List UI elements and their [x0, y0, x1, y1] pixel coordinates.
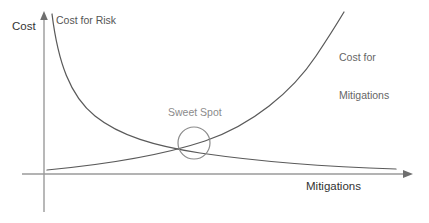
cost-for-mitigations-label-line2: Mitigations [339, 89, 389, 102]
cost-for-risk-label: Cost for Risk [56, 14, 116, 27]
y-axis-label: Cost [12, 19, 36, 33]
cost-vs-mitigations-chart: Cost Mitigations Cost for Risk Cost for … [0, 0, 429, 223]
y-axis-arrow-icon [40, 11, 48, 20]
cost-for-mitigations-label-line1: Cost for [339, 51, 389, 64]
cost-for-mitigations-label: Cost for Mitigations [339, 25, 389, 127]
sweet-spot-label: Sweet Spot [168, 106, 222, 119]
cost-for-mitigations-curve [47, 12, 344, 170]
x-axis-label: Mitigations [306, 179, 361, 193]
sweet-spot-circle-icon [178, 127, 210, 159]
x-axis-arrow-icon [403, 170, 413, 178]
